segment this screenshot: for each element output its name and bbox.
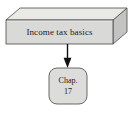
node-chapter-reference[interactable]: Chap. 17 [49, 68, 87, 104]
box-top-face [6, 8, 127, 20]
chapter-label-line1: Chap. [59, 76, 78, 85]
connector-arrowhead-icon [64, 58, 72, 68]
diagram-canvas: Income tax basics Chap. 17 [0, 0, 128, 114]
chapter-label-line2: 17 [64, 87, 72, 96]
diagram-graphic: Income tax basics Chap. 17 [0, 0, 128, 114]
chapter-box-shape [49, 68, 87, 104]
node-income-tax-basics[interactable]: Income tax basics [6, 8, 127, 44]
connector-basics-to-chapter [64, 44, 72, 68]
box-label-text: Income tax basics [26, 27, 93, 37]
